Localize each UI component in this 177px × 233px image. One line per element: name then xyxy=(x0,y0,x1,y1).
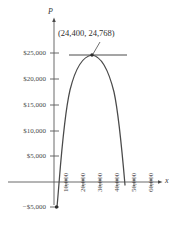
y-tick-label-neg5000: −$5,000 xyxy=(2,204,46,211)
x-tick-label-30000: 30,000 xyxy=(97,173,104,192)
y-tick-label-20000: $20,000 xyxy=(4,76,46,83)
x-tick-label-60000: 60,000 xyxy=(148,173,155,192)
vertex-annotation-label: (24,400, 24,768) xyxy=(58,29,115,38)
y-tick-label-15000: $15,000 xyxy=(4,102,46,109)
y-axis-label: P xyxy=(48,7,53,16)
x-axis-label: x xyxy=(165,176,169,185)
y-axis xyxy=(50,22,59,207)
y-axis-ticks xyxy=(50,53,59,207)
x-tick-label-10000: 10,000 xyxy=(63,173,70,192)
y-tick-label-25000: $25,000 xyxy=(4,50,46,57)
vertex-marker xyxy=(90,53,93,56)
y-tick-label-5000: $5,000 xyxy=(4,153,46,160)
annotation-leader-line xyxy=(93,42,100,54)
chart-figure: $25,000 $20,000 $15,000 $10,000 $5,000 −… xyxy=(0,0,177,233)
y-tick-label-10000: $10,000 xyxy=(4,128,46,135)
x-tick-label-20000: 20,000 xyxy=(80,173,87,192)
x-tick-label-40000: 40,000 xyxy=(114,173,121,192)
x-tick-label-50000: 50,000 xyxy=(131,173,138,192)
left-endpoint-marker xyxy=(55,205,58,208)
